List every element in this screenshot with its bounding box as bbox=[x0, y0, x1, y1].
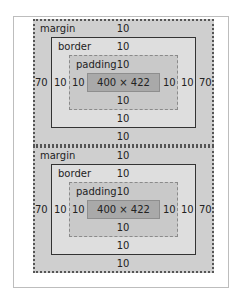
margin-label: margin bbox=[40, 23, 75, 35]
margin-right-value[interactable]: 70 bbox=[199, 77, 212, 89]
padding-left-value[interactable]: 10 bbox=[72, 204, 85, 216]
content-box[interactable]: 400 × 422 bbox=[87, 73, 160, 92]
border-top-value[interactable]: 10 bbox=[117, 41, 130, 53]
padding-top-value[interactable]: 10 bbox=[117, 59, 130, 71]
margin-top-value[interactable]: 10 bbox=[117, 150, 130, 162]
border-top-value[interactable]: 10 bbox=[117, 168, 130, 180]
content-box[interactable]: 400 × 422 bbox=[87, 200, 160, 219]
padding-left-value[interactable]: 10 bbox=[72, 77, 85, 89]
padding-right-value[interactable]: 10 bbox=[163, 204, 176, 216]
border-right-value[interactable]: 10 bbox=[181, 77, 194, 89]
border-left-value[interactable]: 10 bbox=[54, 204, 67, 216]
border-left-value[interactable]: 10 bbox=[54, 77, 67, 89]
margin-label: margin bbox=[40, 150, 75, 162]
margin-right-value[interactable]: 70 bbox=[199, 204, 212, 216]
border-bottom-value[interactable]: 10 bbox=[117, 113, 130, 125]
padding-right-value[interactable]: 10 bbox=[163, 77, 176, 89]
margin-left-value[interactable]: 70 bbox=[35, 204, 48, 216]
padding-top-value[interactable]: 10 bbox=[117, 186, 130, 198]
content-size: 400 × 422 bbox=[97, 204, 150, 215]
margin-bottom-value[interactable]: 10 bbox=[117, 131, 130, 143]
margin-top-value[interactable]: 10 bbox=[117, 23, 130, 35]
margin-left-value[interactable]: 70 bbox=[35, 77, 48, 89]
border-label: border bbox=[58, 168, 91, 180]
margin-bottom-value[interactable]: 10 bbox=[117, 258, 130, 270]
box-model-diagram-1: 400 × 422 margin 10 70 70 10 border 10 1… bbox=[33, 19, 214, 146]
border-bottom-value[interactable]: 10 bbox=[117, 240, 130, 252]
padding-label: padding bbox=[76, 59, 117, 71]
padding-bottom-value[interactable]: 10 bbox=[117, 95, 130, 107]
border-right-value[interactable]: 10 bbox=[181, 204, 194, 216]
border-label: border bbox=[58, 41, 91, 53]
content-size: 400 × 422 bbox=[97, 77, 150, 88]
padding-bottom-value[interactable]: 10 bbox=[117, 222, 130, 234]
padding-label: padding bbox=[76, 186, 117, 198]
box-model-diagram-2: 400 × 422 margin 10 70 70 10 border 10 1… bbox=[33, 146, 214, 273]
